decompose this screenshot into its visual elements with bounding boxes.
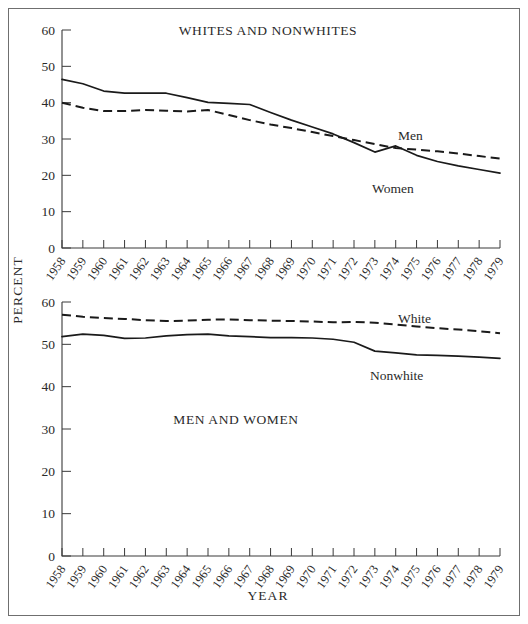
y-tick-label: 50 [42,59,56,74]
series-label-women: Women [372,181,414,196]
x-tick-label: 1976 [418,563,444,592]
x-tick-label: 1964 [168,254,194,283]
x-tick-label: 1962 [126,255,152,284]
x-tick-label: 1972 [335,563,361,592]
x-tick-label: 1977 [439,563,465,592]
y-tick-label: 50 [42,337,56,352]
y-tick-label: 10 [42,204,56,219]
y-tick-label: 0 [48,241,55,256]
y-tick-label: 20 [42,464,56,479]
figure-container: 0102030405060195819591960196119621963196… [0,0,528,624]
x-tick-label: 1970 [293,255,319,284]
y-tick-label: 30 [42,422,56,437]
x-tick-label: 1978 [460,563,486,592]
x-tick-label: 1971 [314,563,340,592]
x-tick-label: 1958 [43,563,69,592]
x-tick-label: 1972 [335,255,361,284]
x-tick-label: 1973 [356,563,382,592]
y-tick-label: 40 [42,95,56,110]
x-tick-label: 1974 [376,254,402,283]
x-tick-label: 1961 [105,563,131,592]
x-tick-label: 1969 [272,563,298,592]
x-tick-label: 1963 [147,255,173,284]
x-tick-label: 1978 [460,255,486,284]
x-tick-label: 1975 [397,255,423,284]
x-tick-label: 1958 [43,255,69,284]
x-tick-label: 1968 [251,255,277,284]
series-line-nonwhite [62,334,500,358]
x-tick-label: 1969 [272,255,298,284]
panel-title-0: WHITES AND NONWHITES [179,23,357,38]
y-tick-label: 60 [42,23,56,38]
x-tick-label: 1974 [376,562,402,591]
chart-canvas: 0102030405060195819591960196119621963196… [0,0,528,624]
x-tick-label: 1965 [189,563,215,592]
x-tick-label: 1959 [64,563,90,592]
x-tick-label: 1960 [84,563,110,592]
series-line-white [62,315,500,334]
x-tick-label: 1970 [293,563,319,592]
x-tick-label: 1966 [210,255,236,284]
series-line-women [62,79,500,173]
x-tick-label: 1962 [126,563,152,592]
x-tick-label: 1961 [105,255,131,284]
x-tick-label: 1971 [314,255,340,284]
y-tick-label: 30 [42,132,56,147]
y-axis-title: PERCENT [10,256,25,324]
x-tick-label: 1960 [84,255,110,284]
x-tick-label: 1977 [439,255,465,284]
x-tick-label: 1975 [397,563,423,592]
series-label-nonwhite: Nonwhite [370,368,423,383]
x-tick-label: 1968 [251,563,277,592]
y-tick-label: 0 [48,549,55,564]
x-tick-label: 1973 [356,255,382,284]
axis-lines-panel-0 [62,30,500,248]
y-tick-label: 60 [42,295,56,310]
x-tick-label: 1967 [230,563,256,592]
y-tick-label: 20 [42,168,56,183]
x-tick-label: 1967 [230,255,256,284]
panel-title-1: MEN AND WOMEN [173,412,298,427]
y-tick-label: 10 [42,506,56,521]
series-label-white: White [398,311,431,326]
x-tick-label: 1976 [418,255,444,284]
x-tick-label: 1963 [147,563,173,592]
series-line-men [62,103,500,159]
x-tick-label: 1966 [210,563,236,592]
axis-lines-panel-1 [62,302,500,556]
y-tick-label: 40 [42,379,56,394]
x-axis-title: YEAR [247,588,288,603]
x-tick-label: 1964 [168,562,194,591]
x-tick-label: 1979 [481,563,507,592]
x-tick-label: 1959 [64,255,90,284]
x-tick-label: 1979 [481,255,507,284]
x-tick-label: 1965 [189,255,215,284]
series-label-men: Men [398,128,423,143]
